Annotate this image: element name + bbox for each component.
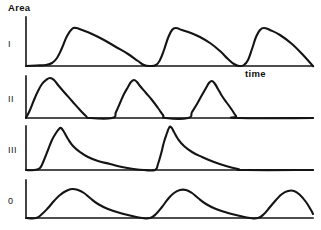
panel-axis-0 [26, 180, 313, 218]
curve-0 [26, 189, 313, 219]
curve-i [26, 28, 313, 67]
y-axis-label: Area [8, 2, 31, 13]
curve-iii [26, 127, 313, 171]
panel-label-i: I [8, 39, 11, 49]
curve-ii [26, 78, 313, 119]
figure-container: Area time IIIIII0 [0, 0, 321, 230]
panel-label-ii: II [8, 94, 14, 104]
panel-label-iii: III [8, 145, 17, 155]
curves-group [26, 28, 313, 219]
panel-row-labels: IIIIII0 [8, 39, 17, 205]
panel-axis-i [26, 17, 313, 66]
panel-label-0: 0 [8, 196, 14, 206]
panel-axis-iii [26, 126, 313, 170]
waveform-figure: Area time IIIIII0 [0, 0, 321, 230]
x-axis-label: time [245, 68, 266, 79]
